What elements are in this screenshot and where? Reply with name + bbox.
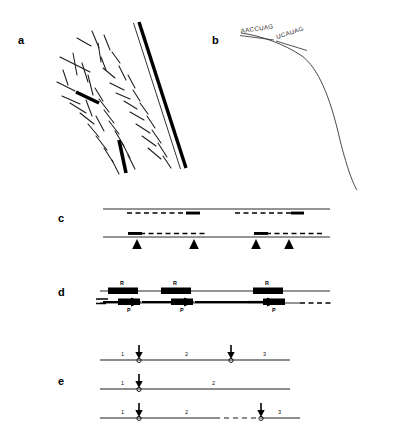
hybrid-thick-cap [186,212,200,215]
segment-number: 3 [278,409,281,415]
r-label: R [265,280,269,286]
cleavage-arrowhead [189,239,199,249]
p-box [171,299,193,306]
segment-number: 1 [121,380,124,386]
p-box [263,299,285,306]
r-label: R [120,280,124,286]
cleavage-arrowhead [251,239,261,249]
panel-c-row-2 [103,232,330,249]
segment-number: 3 [263,351,266,357]
r-box [161,288,191,295]
panel-label-c: c [58,212,64,224]
panel-b-sequence-2: UCAUAG [275,24,304,39]
panel-label-b: b [212,34,219,46]
panel-c: c [58,209,330,249]
panel-b-sequence-1: AACCUAG [240,22,274,34]
r-box [108,288,138,295]
panel-d-unit-3: R P [253,280,285,313]
p-label: P [127,307,131,313]
panel-c-arrowheads [132,239,294,249]
panel-a-thin-fibrils [57,31,171,174]
panel-a: a [18,22,186,174]
segment-number: 1 [121,409,124,415]
panel-d-unit-1: R P [108,280,140,313]
cleavage-arrowhead [132,239,142,249]
hybrid-thick-cap [254,232,268,235]
p-box [118,299,140,306]
figure-root: a [0,0,398,441]
p-label: P [180,307,184,313]
panel-b: b AACCUAG UCAUAG [212,22,357,190]
panel-c-row-1 [103,209,330,215]
panel-b-curve [241,33,357,190]
segment-number: 1 [121,351,124,357]
r-box [253,288,283,295]
panel-e-row-3: 1 2 3 [100,403,300,421]
panel-label-a: a [18,34,25,46]
panel-e-row-2: 1 2 [100,374,290,392]
panel-b-underline-2 [276,41,307,51]
cleavage-arrowhead [284,239,294,249]
figure-canvas: a [0,0,398,441]
segment-number: 2 [212,380,215,386]
panel-d-unit-2: R P [161,280,193,313]
p-label: P [272,307,276,313]
r-label: R [173,280,177,286]
panel-e: e 1 2 3 1 2 [58,345,300,421]
segment-number: 2 [185,409,188,415]
hybrid-thick-cap [128,232,142,235]
panel-a-duplex-filament [134,22,187,169]
panel-d: d R P [58,280,333,313]
panel-e-row-1: 1 2 3 [100,345,290,363]
segment-number: 2 [185,351,188,357]
panel-label-d: d [58,286,65,298]
panel-label-e: e [58,375,64,387]
hybrid-thick-cap [291,212,304,215]
